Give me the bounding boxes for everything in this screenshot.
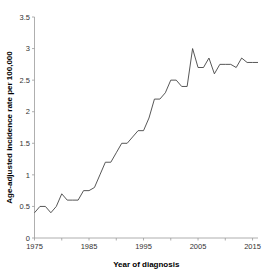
x-tick-label: 1975 xyxy=(26,242,43,251)
y-tick-label: 1.5 xyxy=(20,139,30,148)
incidence-rate-line xyxy=(35,49,259,213)
line-chart: 00.511.522.533.5 19751985199520052015 Ye… xyxy=(0,0,265,280)
axis-lines xyxy=(35,17,259,238)
x-tick-label: 2005 xyxy=(190,242,207,251)
x-tick-label: 1995 xyxy=(135,242,152,251)
y-tick-label: 2 xyxy=(26,107,30,116)
y-tick-label: 3 xyxy=(26,44,30,53)
y-tick-label: 3.5 xyxy=(20,13,30,22)
x-tick-label: 1985 xyxy=(81,242,98,251)
y-axis-title: Age-adjusted incidence rate per 100,000 xyxy=(5,51,14,204)
y-axis-tick-labels: 00.511.522.533.5 xyxy=(20,13,35,243)
x-axis-title: Year of diagnosis xyxy=(113,260,180,269)
y-tick-label: 1 xyxy=(26,171,30,180)
y-tick-label: 2.5 xyxy=(20,76,30,85)
x-tick-label: 2015 xyxy=(244,242,261,251)
chart-container: 00.511.522.533.5 19751985199520052015 Ye… xyxy=(0,0,265,280)
y-tick-label: 0.5 xyxy=(20,202,30,211)
x-axis-tick-labels: 19751985199520052015 xyxy=(26,238,261,251)
